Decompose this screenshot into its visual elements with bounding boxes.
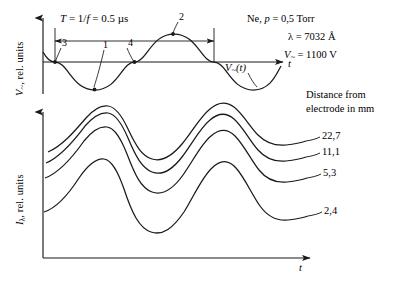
intensity-curve-label-leaders <box>306 137 322 216</box>
marker-4-dot <box>133 60 137 64</box>
period-annotation-graphic <box>55 28 214 62</box>
param-gas-pressure: Ne, p = 0,5 Torr <box>247 13 314 24</box>
param-voltage: V~ = 1100 V <box>284 49 337 62</box>
param-wavelength: λ = 7032 Å <box>288 31 335 42</box>
intensity-curve-11-1 <box>46 113 306 173</box>
legend-title-line2: electrode in mm <box>306 103 374 114</box>
voltage-axis-title: V~, rel. units <box>14 42 27 96</box>
intensity-axis-title: Iλ, rel. units <box>14 174 27 225</box>
legend-title-line1: Distance from <box>306 89 366 100</box>
period-annotation: T = 1/f = 0.5 µs <box>60 13 128 25</box>
bottom-panel-axes <box>43 112 310 258</box>
marker-2-leader <box>173 22 178 33</box>
top-panel-marker-leaders <box>53 22 257 91</box>
voltage-curve-label-leader <box>248 73 257 87</box>
marker-3-dot <box>53 60 57 64</box>
marker-3-leader <box>56 48 62 61</box>
figure-container: V~, rel. units Iλ, rel. units T = 1/f = … <box>0 0 416 287</box>
intensity-curve-5-3 <box>45 127 307 193</box>
curve-label-11-1: 11,1 <box>322 146 340 157</box>
marker-2-label: 2 <box>179 12 184 23</box>
marker-1-leader <box>94 50 104 87</box>
marker-2-dot <box>171 32 175 36</box>
curve-label-5-3: 5,3 <box>323 167 336 178</box>
marker-4-label: 4 <box>128 38 133 49</box>
curve-label-22-7: 22,7 <box>322 130 340 141</box>
marker-1-label: 1 <box>103 40 108 51</box>
leader-22-7 <box>306 137 320 141</box>
intensity-curve-22-7 <box>48 103 306 160</box>
marker-3-label: 3 <box>62 38 67 49</box>
top-panel-axes <box>43 18 283 94</box>
curve-label-2-4: 2,4 <box>324 205 337 216</box>
marker-1-dot <box>93 88 97 92</box>
intensity-curve-2-4 <box>44 159 308 233</box>
leader-2-4 <box>308 212 322 216</box>
marker-4-leader <box>127 48 134 61</box>
voltage-curve-label: V~(t) <box>225 62 246 75</box>
leader-11-1 <box>306 153 320 157</box>
intensity-x-axis-label: t <box>299 262 302 273</box>
leader-5-3 <box>307 174 321 178</box>
